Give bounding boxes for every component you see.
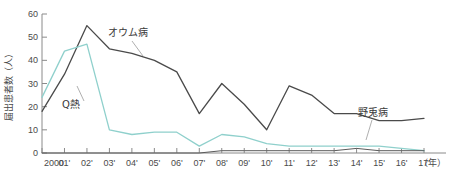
y-tick-label: 30 [28,79,38,89]
x-tick-label: 03' [104,158,116,168]
x-tick-label: 04' [126,158,138,168]
y-tick-label: 50 [28,32,38,42]
x-axis-unit-label: （年） [419,157,446,168]
x-tick-label: 14' [351,158,363,168]
y-tick-label: 60 [28,9,38,19]
y-tick-label: 0 [33,148,38,158]
y-tick-label: 40 [28,55,38,65]
x-axis-tick-labels: 200001'02'03'04'05'06'07'08'09'10'11'12'… [44,158,430,168]
chart-svg: 0102030405060 200001'02'03'04'05'06'07'0… [0,0,454,175]
x-tick-label: 07' [193,158,205,168]
x-tick-label: 02' [81,158,93,168]
series-label-tularemia: 野兎病 [358,106,388,118]
x-tick-label: 08' [216,158,228,168]
series-line-tularemia [42,148,424,153]
y-axis-tick-labels: 0102030405060 [28,9,38,158]
x-tick-label: 16' [396,158,408,168]
series-label-qfever: Q熱 [62,98,80,110]
x-tick-label: 01' [59,158,71,168]
line-chart: 0102030405060 200001'02'03'04'05'06'07'0… [0,0,454,175]
x-tick-label: 11' [284,158,295,168]
x-tick-label: 05' [148,158,160,168]
y-tick-label: 10 [28,125,38,135]
x-tick-label: 06' [171,158,183,168]
x-tick-label: 13' [328,158,340,168]
series-line-qfever [42,44,424,151]
y-tick-label: 20 [28,102,38,112]
x-tick-label: 15' [373,158,385,168]
leader-line-tularemia [366,120,372,140]
x-tick-label: 09' [238,158,250,168]
y-axis-ticks [42,14,47,153]
y-axis-title: 届出患者数（人） [3,49,14,121]
x-tick-label: 10' [261,158,273,168]
x-tick-label: 12' [306,158,318,168]
series-label-psittacosis: オウム病 [108,26,148,38]
